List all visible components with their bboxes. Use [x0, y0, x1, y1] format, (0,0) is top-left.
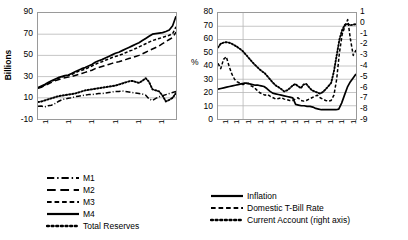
legend-swatch-icon — [46, 197, 80, 207]
left-plot-area — [37, 12, 177, 120]
legend-label: Domestic T-Bill Rate — [247, 203, 324, 213]
axis-tick-label: 10 — [183, 101, 213, 111]
axis-tick-label: -5 — [360, 71, 368, 81]
axis-tick-label: -7 — [360, 92, 368, 102]
axis-tick-label: 50 — [183, 47, 213, 57]
legend-label: M3 — [83, 197, 95, 207]
axis-tick-label: -3 — [360, 49, 368, 59]
axis-tick-label: 50 — [3, 49, 33, 59]
legend-item: Current Account (right axis) — [210, 214, 350, 226]
legend-item: M3 — [46, 196, 139, 208]
legend-label: M2 — [83, 185, 95, 195]
legend-label: M4 — [83, 209, 95, 219]
legend-swatch-icon — [46, 185, 80, 195]
axis-tick-label: -6 — [360, 82, 368, 92]
axis-tick-label: 70 — [183, 20, 213, 30]
series-line — [38, 91, 176, 107]
axis-tick-label: 30 — [3, 71, 33, 81]
right-chart-panel: % Billions of U.S. dollars 8070605040302… — [190, 0, 408, 240]
legend-item: M1 — [46, 172, 139, 184]
axis-tick-label: 1 — [360, 6, 365, 16]
axis-tick-label: 70 — [3, 28, 33, 38]
axis-tick-label: -1 — [360, 28, 368, 38]
axis-tick-label: -8 — [360, 103, 368, 113]
legend-item: Inflation — [210, 190, 350, 202]
legend-swatch-icon — [46, 221, 80, 231]
legend-item: M2 — [46, 184, 139, 196]
legend-swatch-icon — [46, 209, 80, 219]
legend-swatch-icon — [46, 173, 80, 183]
axis-tick-label: -9 — [360, 114, 368, 124]
legend-item: Total Reserves — [46, 220, 139, 232]
axis-tick-label: 60 — [183, 33, 213, 43]
axis-tick-label: 40 — [183, 60, 213, 70]
legend-swatch-icon — [210, 203, 244, 213]
left-y-axis-title: Billions — [3, 35, 13, 95]
legend-label: Inflation — [247, 191, 277, 201]
legend-swatch-icon — [210, 215, 244, 225]
axis-tick-label: -10 — [3, 114, 33, 124]
legend-label: Current Account (right axis) — [247, 215, 350, 225]
axis-tick-label: 0 — [360, 17, 365, 27]
left-legend: M1M2M3M4Total Reserves — [46, 172, 139, 232]
axis-tick-label: -2 — [360, 38, 368, 48]
legend-item: Domestic T-Bill Rate — [210, 202, 350, 214]
axis-tick-label: 20 — [183, 87, 213, 97]
axis-tick-label: 90 — [3, 6, 33, 16]
axis-tick-label: 80 — [183, 6, 213, 16]
legend-item: M4 — [46, 208, 139, 220]
left-chart-panel: Billions 9070503010-10 1990M11991M11992M… — [0, 0, 190, 240]
axis-tick-label: -4 — [360, 60, 368, 70]
legend-label: M1 — [83, 173, 95, 183]
right-legend: InflationDomestic T-Bill RateCurrent Acc… — [210, 190, 350, 226]
legend-label: Total Reserves — [83, 221, 139, 231]
figure: Billions 9070503010-10 1990M11991M11992M… — [0, 0, 408, 240]
axis-tick-label: 10 — [3, 92, 33, 102]
legend-swatch-icon — [210, 191, 244, 201]
axis-tick-label: 0 — [183, 114, 213, 124]
right-plot-area — [217, 12, 357, 120]
axis-tick-label: 30 — [183, 74, 213, 84]
